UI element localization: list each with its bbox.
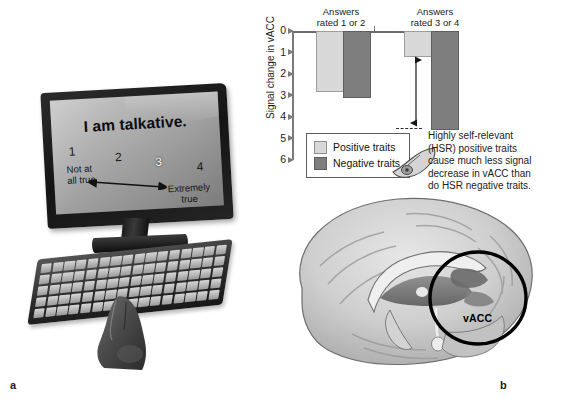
y-tick-label-6: 6 bbox=[272, 153, 286, 165]
legend-swatch-negative bbox=[314, 157, 327, 170]
y-tick-3 bbox=[288, 92, 301, 98]
callout-line-1: Highly self-relevant bbox=[428, 130, 578, 143]
y-tick-label-1: 1 bbox=[272, 46, 286, 58]
panel-label-b: b bbox=[500, 380, 507, 391]
y-tick-label-0: 0 bbox=[272, 24, 286, 36]
y-tick-label-2: 2 bbox=[272, 67, 286, 79]
hand-pressing-key-icon bbox=[86, 296, 158, 370]
y-tick-label-3: 3 bbox=[272, 89, 286, 101]
y-tick-1 bbox=[288, 49, 301, 55]
delta-double-arrow-icon bbox=[410, 55, 422, 128]
legend-swatch-positive bbox=[314, 141, 327, 154]
panel-b: Signal change in vACC Answers rated 1 or… bbox=[250, 0, 578, 408]
callout-line-2: (HSR) positive traits bbox=[428, 143, 578, 156]
group-header-1-line2: rated 3 or 4 bbox=[392, 17, 478, 28]
y-tick-4 bbox=[288, 114, 301, 120]
vacc-signal-change-bar-chart: Signal change in vACC Answers rated 1 or… bbox=[250, 0, 578, 200]
legend-item-positive-traits: Positive traits bbox=[314, 139, 400, 155]
figure-root: I am talkative. 1 2 3 4 Not at all true … bbox=[0, 0, 578, 408]
panel-label-a: a bbox=[10, 380, 16, 391]
bar-positive-group-1 bbox=[404, 31, 432, 57]
computer-monitor: I am talkative. 1 2 3 4 Not at all true … bbox=[40, 83, 233, 229]
legend-item-negative-traits: Negative traits bbox=[314, 155, 400, 171]
chart-callout-text: Highly self-relevant (HSR) positive trai… bbox=[428, 130, 578, 193]
scale-option-4[interactable]: 4 bbox=[196, 159, 203, 173]
y-tick-5 bbox=[288, 135, 301, 141]
group-separator-tick bbox=[374, 26, 375, 31]
scale-option-1[interactable]: 1 bbox=[68, 144, 75, 158]
group-header-rated-3-or-4: Answers rated 3 or 4 bbox=[392, 6, 478, 28]
y-tick-label-4: 4 bbox=[272, 110, 286, 122]
bar-positive-group-0 bbox=[316, 31, 344, 92]
mid-sagittal-brain-image bbox=[240, 192, 578, 378]
scale-double-arrow-icon bbox=[88, 175, 167, 193]
callout-line-4: decrease in vACC than bbox=[428, 168, 578, 181]
callout-line-3: cause much less signal bbox=[428, 155, 578, 168]
y-tick-label-5: 5 bbox=[272, 132, 286, 144]
y-tick-0 bbox=[288, 28, 301, 34]
group-header-0-line2: rated 1 or 2 bbox=[298, 17, 384, 28]
panel-a: I am talkative. 1 2 3 4 Not at all true … bbox=[0, 0, 250, 375]
group-header-0-line1: Answers bbox=[298, 6, 384, 17]
survey-question-text: I am talkative. bbox=[51, 110, 220, 137]
bar-negative-group-1 bbox=[431, 31, 459, 130]
scale-option-2[interactable]: 2 bbox=[115, 150, 122, 164]
y-tick-2 bbox=[288, 71, 301, 77]
delta-baseline-dashed bbox=[396, 128, 422, 129]
y-tick-6 bbox=[288, 157, 301, 163]
monitor-screen: I am talkative. 1 2 3 4 Not at all true … bbox=[50, 91, 224, 214]
bar-negative-group-0 bbox=[343, 31, 371, 98]
scale-option-3-selected[interactable]: 3 bbox=[155, 155, 162, 169]
scale-anchor-high: Extremely true bbox=[168, 181, 211, 205]
legend-label-positive: Positive traits bbox=[333, 141, 395, 153]
group-header-1-line1: Answers bbox=[392, 6, 478, 17]
vacc-region-label: vACC bbox=[463, 312, 492, 324]
group-header-rated-1-or-2: Answers rated 1 or 2 bbox=[298, 6, 384, 28]
